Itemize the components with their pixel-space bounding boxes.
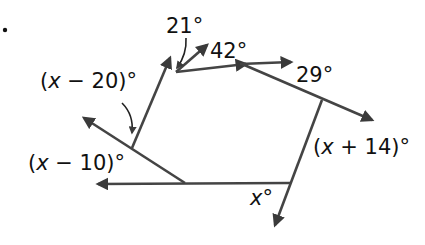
angle-label-x-minus-10: (x − 10)° <box>28 151 125 175</box>
angle-label-29: 29° <box>296 63 333 87</box>
side <box>240 62 291 64</box>
side-extension <box>275 100 322 225</box>
angle-label-x: x° <box>249 186 273 210</box>
angle-label-x-minus-20: (x − 20)° <box>40 69 137 93</box>
angle-label-x-plus-14: (x + 14)° <box>313 135 410 159</box>
side-extension <box>176 64 246 72</box>
pointer-arrow <box>122 103 132 133</box>
angle-label-21: 21° <box>166 14 203 38</box>
side-extension <box>132 58 170 148</box>
side-extension <box>98 183 290 184</box>
exterior-angles-diagram: 21° 42° 29° (x − 20)° (x − 10)° (x + 14)… <box>0 0 425 245</box>
problem-bullet <box>3 28 7 32</box>
angle-label-42: 42° <box>210 39 247 63</box>
